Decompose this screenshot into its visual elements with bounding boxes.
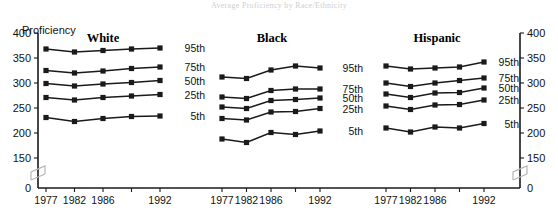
data-point-marker [383, 125, 388, 130]
x-tick-label: 1977 [374, 194, 398, 206]
data-point-marker [129, 93, 134, 98]
data-point-marker [72, 83, 77, 88]
data-point-marker [408, 66, 413, 71]
y-tick-label-left: 200 [13, 127, 31, 139]
x-tick-label: 1992 [472, 194, 496, 206]
y-tick-label-left: 150 [13, 152, 31, 164]
data-point-marker [72, 49, 77, 54]
data-point-marker [481, 59, 486, 64]
data-point-marker [43, 81, 48, 86]
series-label-5th: 5th [348, 125, 363, 137]
x-tick-label: 1992 [308, 194, 332, 206]
y-tick-label-right: 300 [527, 77, 545, 89]
x-tick-label: 1982 [235, 194, 259, 206]
data-point-marker [100, 81, 105, 86]
data-point-marker [317, 86, 322, 91]
y-tick-label-right: 200 [527, 127, 545, 139]
data-point-marker [244, 96, 249, 101]
y-tick-label-right: 250 [527, 102, 545, 114]
data-point-marker [219, 94, 224, 99]
data-point-marker [129, 66, 134, 71]
data-point-marker [157, 45, 162, 50]
x-tick-label: 1977 [210, 194, 234, 206]
series-label-25th: 25th [343, 103, 364, 115]
data-point-marker [129, 46, 134, 51]
data-point-marker [383, 103, 388, 108]
y-tick-label-left: 300 [13, 77, 31, 89]
x-tick-label: 1982 [399, 194, 423, 206]
data-point-marker [383, 63, 388, 68]
data-point-marker [481, 121, 486, 126]
data-point-marker [432, 102, 437, 107]
series-label-25th: 25th [499, 94, 520, 106]
series-label-5th: 5th [190, 110, 205, 122]
data-point-marker [157, 113, 162, 118]
data-point-marker [293, 97, 298, 102]
y-tick-label-right: 150 [527, 152, 545, 164]
series-label-50th: 50th [499, 82, 520, 94]
data-point-marker [383, 80, 388, 85]
x-tick-label: 1986 [423, 194, 447, 206]
data-point-marker [408, 84, 413, 89]
y-tick-label-left: 250 [13, 102, 31, 114]
data-point-marker [481, 85, 486, 90]
x-tick-label: 1977 [34, 194, 58, 206]
data-point-marker [43, 46, 48, 51]
data-point-marker [293, 63, 298, 68]
data-point-marker [457, 78, 462, 83]
data-point-marker [43, 68, 48, 73]
data-point-marker [72, 119, 77, 124]
chart-canvas: 00150150200200250250300300350350400400Wh… [0, 0, 558, 216]
series-label-95th: 95th [343, 62, 364, 74]
data-point-marker [293, 86, 298, 91]
x-tick-label: 1986 [259, 194, 283, 206]
series-label-95th: 95th [185, 42, 206, 54]
data-point-marker [432, 80, 437, 85]
x-tick-label: 1982 [63, 194, 87, 206]
data-point-marker [408, 129, 413, 134]
data-point-marker [43, 115, 48, 120]
data-point-marker [244, 76, 249, 81]
data-point-marker [432, 124, 437, 129]
x-tick-label: 1986 [91, 194, 115, 206]
panel-title-hispanic: Hispanic [413, 31, 461, 45]
data-point-marker [129, 80, 134, 85]
data-point-marker [244, 117, 249, 122]
y-tick-label-left: 0 [25, 182, 31, 194]
data-point-marker [219, 74, 224, 79]
data-point-marker [268, 67, 273, 72]
series-label-5th: 5th [504, 118, 519, 130]
chart-figure: Average Proficiency by Race/Ethnicity Pr… [0, 0, 558, 216]
data-point-marker [432, 65, 437, 70]
data-point-marker [317, 128, 322, 133]
series-label-25th: 25th [185, 89, 206, 101]
panel-title-white: White [87, 31, 120, 45]
data-point-marker [457, 102, 462, 107]
data-point-marker [457, 90, 462, 95]
data-point-marker [457, 125, 462, 130]
data-point-marker [100, 116, 105, 121]
data-point-marker [317, 106, 322, 111]
data-point-marker [244, 106, 249, 111]
data-point-marker [244, 140, 249, 145]
data-point-marker [100, 68, 105, 73]
data-point-marker [457, 64, 462, 69]
data-point-marker [219, 116, 224, 121]
data-point-marker [268, 109, 273, 114]
data-point-marker [72, 70, 77, 75]
data-point-marker [408, 95, 413, 100]
y-tick-label-right: 400 [527, 27, 545, 39]
data-point-marker [268, 98, 273, 103]
y-tick-label-left: 350 [13, 52, 31, 64]
series-label-75th: 75th [185, 61, 206, 73]
x-tick-label: 1992 [148, 194, 172, 206]
data-point-marker [481, 75, 486, 80]
y-tick-label-right: 350 [527, 52, 545, 64]
data-point-marker [129, 114, 134, 119]
data-point-marker [219, 136, 224, 141]
data-point-marker [268, 130, 273, 135]
series-label-95th: 95th [499, 56, 520, 68]
data-point-marker [481, 97, 486, 102]
data-point-marker [219, 104, 224, 109]
series-label-50th: 50th [185, 75, 206, 87]
